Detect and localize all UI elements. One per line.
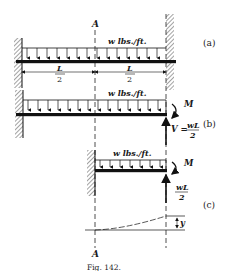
moment-label-b: M [183, 99, 194, 109]
part-c [85, 150, 185, 230]
section-label-bottom: A [91, 249, 99, 259]
shear-num-c: wL [176, 182, 189, 192]
moment-arrow-b [172, 104, 176, 118]
distributed-load-arrows-b [28, 100, 158, 110]
beam-figure: A A w lbs./ft. (a) L 2 L [0, 0, 231, 271]
shear-den-b: 2 [189, 130, 196, 140]
distributed-load-arrows-c [100, 160, 160, 167]
moment-label-c: M [183, 158, 194, 168]
shear-den-c: 2 [178, 192, 185, 202]
load-label-b: w lbs./ft. [108, 88, 147, 98]
deflection-curve [95, 216, 166, 230]
dim-left-num: L [56, 63, 63, 73]
distributed-load-arrows-a [27, 48, 157, 58]
shear-label-b: V = [171, 124, 188, 134]
dim-right-num: L [126, 63, 133, 73]
beam-c [95, 169, 167, 172]
load-label-c: w lbs./ft. [113, 148, 152, 158]
load-label-a: w lbs./ft. [108, 36, 147, 46]
fixed-wall-right-a [166, 14, 174, 90]
beam-b [16, 113, 167, 116]
deflection-label: y [179, 218, 186, 228]
part-b [15, 90, 176, 145]
shear-num-b: wL [187, 120, 200, 130]
figure-caption: Fig. 142. [87, 263, 121, 271]
part-tag-c: (c) [203, 200, 215, 210]
dim-right-den: 2 [127, 75, 132, 84]
section-label-top: A [91, 19, 99, 29]
part-tag-a: (a) [203, 38, 215, 48]
moment-arrow-c [172, 162, 176, 174]
beam-a [16, 60, 176, 63]
fixed-wall-c [87, 150, 95, 196]
part-tag-b: (b) [203, 119, 216, 129]
dim-left-den: 2 [57, 75, 62, 84]
